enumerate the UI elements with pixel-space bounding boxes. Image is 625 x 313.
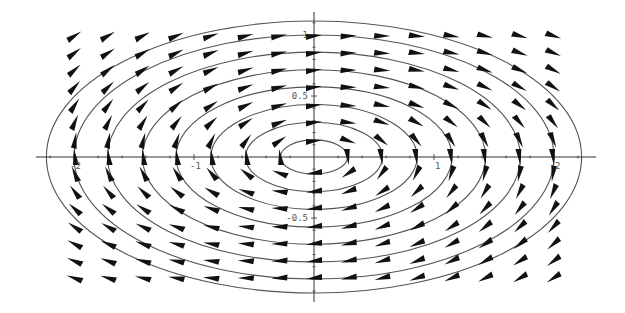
arrow-icon bbox=[67, 240, 83, 250]
arrow-icon bbox=[240, 168, 255, 180]
arrow-icon bbox=[272, 136, 287, 148]
arrow-icon bbox=[239, 134, 251, 149]
arrow-icon bbox=[67, 65, 81, 78]
arrow-icon bbox=[446, 183, 458, 198]
arrow-icon bbox=[374, 33, 391, 39]
arrow-icon bbox=[238, 68, 254, 76]
arrow-icon bbox=[206, 133, 216, 149]
arrow-icon bbox=[411, 184, 424, 198]
arrow-icon bbox=[373, 134, 388, 146]
arrow-icon bbox=[375, 238, 391, 246]
arrow-icon bbox=[238, 102, 254, 112]
arrow-icon bbox=[512, 114, 525, 128]
arrow-icon bbox=[511, 31, 528, 38]
arrow-icon bbox=[100, 32, 115, 43]
arrow-icon bbox=[513, 254, 528, 266]
arrow-icon bbox=[136, 224, 152, 233]
arrow-icon bbox=[170, 187, 185, 199]
arrow-icon bbox=[373, 117, 390, 125]
arrow-icon bbox=[513, 132, 523, 148]
arrow-icon bbox=[206, 167, 219, 181]
arrow-icon bbox=[410, 220, 425, 230]
arrow-icon bbox=[100, 65, 114, 78]
arrow-icon bbox=[238, 225, 255, 231]
arrow-icon bbox=[169, 242, 186, 249]
arrow-icon bbox=[341, 239, 357, 246]
arrow-icon bbox=[105, 167, 115, 183]
arrow-icon bbox=[169, 100, 183, 113]
arrow-icon bbox=[409, 272, 425, 280]
arrow-icon bbox=[409, 133, 422, 147]
arrow-icon bbox=[238, 242, 255, 248]
arrow-icon bbox=[271, 51, 287, 57]
arrow-icon bbox=[135, 66, 150, 78]
arrow-icon bbox=[513, 271, 528, 282]
arrow-icon bbox=[203, 225, 220, 232]
arrow-icon bbox=[169, 224, 186, 232]
arrow-icon bbox=[135, 32, 150, 42]
arrow-icon bbox=[102, 115, 112, 131]
arrow-icon bbox=[238, 275, 255, 281]
arrow-icon bbox=[168, 259, 185, 265]
arrow-icon bbox=[443, 115, 458, 127]
arrow-icon bbox=[136, 204, 152, 215]
arrow-icon bbox=[443, 99, 459, 109]
arrow-icon bbox=[238, 84, 254, 93]
arrow-icon bbox=[272, 170, 289, 178]
arrow-icon bbox=[66, 31, 81, 43]
arrow-icon bbox=[238, 207, 255, 213]
arrow-icon bbox=[478, 272, 493, 282]
arrow-icon bbox=[135, 259, 152, 266]
arrow-icon bbox=[545, 47, 561, 56]
arrow-icon bbox=[340, 50, 356, 56]
arrow-icon bbox=[341, 256, 357, 262]
arrow-icon bbox=[168, 83, 183, 95]
arrow-icon bbox=[100, 49, 115, 61]
arrow-icon bbox=[203, 50, 219, 59]
y-tick-label: 1 bbox=[303, 30, 308, 40]
arrow-icon bbox=[67, 48, 81, 60]
arrow-icon bbox=[516, 183, 526, 199]
arrow-icon bbox=[545, 31, 562, 39]
arrow-icon bbox=[135, 82, 149, 95]
arrow-icon bbox=[477, 115, 491, 128]
arrow-icon bbox=[137, 115, 148, 131]
arrow-icon bbox=[204, 188, 220, 198]
arrow-icon bbox=[101, 82, 114, 96]
arrow-icon bbox=[70, 186, 82, 200]
arrow-icon bbox=[101, 241, 117, 250]
arrow-icon bbox=[169, 205, 185, 215]
arrow-icon bbox=[518, 165, 524, 182]
arrow-icon bbox=[443, 49, 460, 55]
arrow-icon bbox=[375, 202, 391, 212]
arrow-icon bbox=[476, 99, 492, 110]
arrow-icon bbox=[203, 84, 218, 94]
arrow-icon bbox=[483, 165, 490, 182]
arrow-icon bbox=[374, 67, 391, 73]
arrow-icon bbox=[168, 66, 183, 77]
arrow-icon bbox=[67, 258, 83, 267]
arrow-icon bbox=[140, 167, 151, 182]
arrow-icon bbox=[271, 34, 287, 40]
arrow-icon bbox=[409, 255, 425, 264]
arrow-icon bbox=[341, 273, 357, 279]
arrow-icon bbox=[69, 115, 78, 131]
arrow-icon bbox=[373, 101, 390, 107]
arrow-icon bbox=[342, 166, 357, 178]
x-tick-label: 2 bbox=[555, 161, 560, 171]
arrow-icon bbox=[71, 132, 77, 149]
arrow-icon bbox=[168, 276, 185, 282]
arrow-icon bbox=[413, 165, 423, 181]
arrow-icon bbox=[100, 258, 117, 266]
arrow-icon bbox=[203, 242, 220, 248]
arrow-icon bbox=[408, 83, 425, 90]
arrow-icon bbox=[135, 49, 150, 60]
arrow-icon bbox=[478, 132, 489, 147]
arrow-icon bbox=[238, 258, 255, 264]
arrow-icon bbox=[514, 236, 528, 249]
x-tick-label: -2 bbox=[70, 161, 81, 171]
arrow-icon bbox=[373, 83, 390, 89]
arrow-icon bbox=[101, 99, 113, 114]
arrow-icon bbox=[511, 48, 528, 56]
arrow-icon bbox=[340, 119, 357, 125]
